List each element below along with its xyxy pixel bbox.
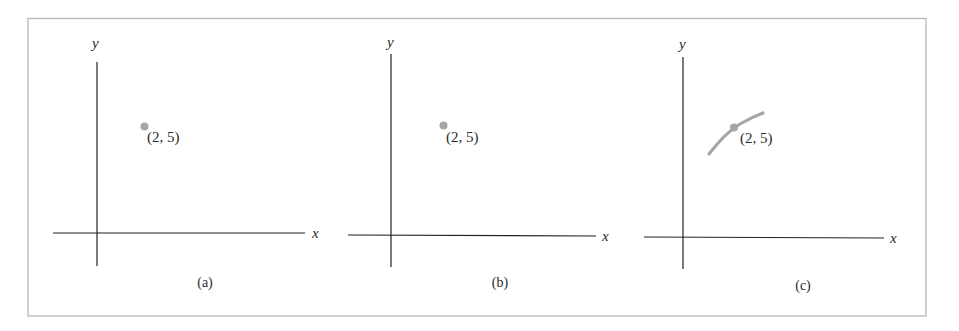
point-label: (2, 5): [446, 129, 479, 146]
figure-canvas: y x (2, 5) (a) y x (2, 5) (b) y x (2, 5)…: [0, 0, 959, 331]
panel-a: y x (2, 5) (a): [53, 35, 319, 291]
point-label: (2, 5): [147, 129, 180, 146]
x-axis-label: x: [889, 230, 897, 246]
panel-caption: (c): [795, 278, 811, 294]
x-axis: [644, 237, 884, 238]
x-axis: [348, 235, 596, 236]
x-axis-label: x: [601, 228, 609, 244]
panel-caption: (a): [197, 275, 213, 291]
y-axis-label: y: [677, 36, 686, 52]
panel-caption: (b): [492, 275, 509, 291]
x-axis-label: x: [311, 225, 319, 241]
point-marker: [730, 124, 738, 132]
panel-c: y x (2, 5) (c): [644, 36, 897, 294]
figure: y x (2, 5) (a) y x (2, 5) (b) y x (2, 5)…: [0, 0, 959, 331]
point-label: (2, 5): [740, 130, 773, 147]
y-axis-label: y: [385, 34, 394, 50]
y-axis-label: y: [90, 35, 99, 51]
panel-b: y x (2, 5) (b): [348, 34, 609, 291]
figure-frame: [28, 19, 926, 317]
